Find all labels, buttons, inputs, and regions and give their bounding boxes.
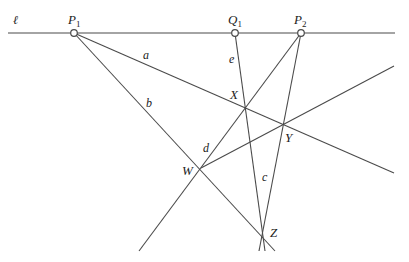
line-d	[139, 33, 301, 251]
label-x: X	[229, 87, 239, 102]
label-y: Y	[285, 130, 294, 145]
label-l: ℓ	[13, 13, 18, 27]
label-z: Z	[270, 225, 278, 240]
label-q1: Q1	[228, 12, 242, 29]
label-p2: P2	[293, 12, 306, 29]
geometry-diagram: ℓ P1 Q1 P2 X Y W Z a b e c d	[0, 0, 409, 262]
label-b: b	[146, 96, 152, 110]
point-p1	[71, 30, 78, 37]
point-q1	[232, 30, 239, 37]
label-p1: P1	[67, 12, 80, 29]
label-w: W	[182, 163, 194, 178]
line-c	[259, 33, 301, 251]
point-p2	[298, 30, 305, 37]
label-a: a	[143, 48, 149, 62]
line-wy	[201, 66, 394, 168]
label-e: e	[229, 52, 235, 66]
label-c: c	[262, 170, 268, 184]
line-b	[74, 33, 275, 251]
label-d: d	[203, 141, 210, 155]
